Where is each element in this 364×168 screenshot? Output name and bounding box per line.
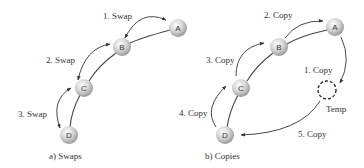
node-b: B	[270, 38, 288, 56]
copy-arrow-4	[211, 86, 226, 127]
step-label-4-copy: 4. Copy	[179, 108, 208, 118]
node-b-label: B	[119, 43, 124, 52]
diagram-copies: A B C D 2. Copy 3. Copy 1. Copy 4. Copy …	[179, 10, 347, 161]
caption-copies: b) Copies	[205, 151, 240, 161]
step-label-3-swap: 3. Swap	[18, 109, 47, 119]
node-c-label: C	[81, 84, 87, 93]
node-d-label: D	[66, 131, 72, 140]
step-label-3-copy: 3. Copy	[206, 55, 235, 65]
node-c: C	[232, 79, 250, 97]
node-a: A	[169, 19, 187, 37]
node-d: D	[216, 126, 234, 144]
step-label-2-swap: 2. Swap	[46, 55, 75, 65]
caption-swaps: a) Swaps	[49, 151, 82, 161]
node-d: D	[60, 126, 78, 144]
copy-arrow-1	[340, 37, 346, 83]
node-b: B	[113, 38, 131, 56]
node-a-label: A	[332, 23, 338, 32]
step-label-1-copy: 1. Copy	[304, 65, 333, 75]
node-a: A	[326, 18, 344, 36]
temp-label: Temp	[326, 104, 347, 114]
node-temp	[318, 81, 336, 99]
step-label-1-swap: 1. Swap	[103, 11, 132, 21]
step-label-2-copy: 2. Copy	[264, 10, 293, 20]
step-label-5-copy: 5. Copy	[298, 129, 327, 139]
node-a-label: A	[175, 24, 181, 33]
node-c-label: C	[238, 84, 244, 93]
diagram-canvas: A B C D 1. Swap 2. Swap 3. Swap a) Swaps	[0, 0, 364, 168]
copy-arrow-3	[236, 43, 264, 76]
node-d-label: D	[222, 131, 228, 140]
diagram-swaps: A B C D 1. Swap 2. Swap 3. Swap a) Swaps	[18, 11, 187, 161]
node-b-label: B	[276, 43, 281, 52]
node-c: C	[75, 79, 93, 97]
copy-arrow-2	[285, 21, 323, 38]
swap-arrow-3	[57, 88, 71, 128]
